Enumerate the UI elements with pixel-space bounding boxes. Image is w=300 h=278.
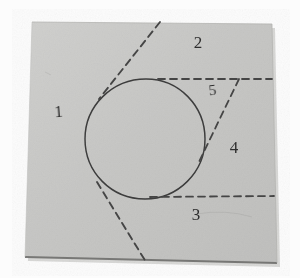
region-label-1: 1: [54, 102, 64, 122]
paper-sheet: [25, 22, 277, 263]
photographed-paper-figure: 12345: [0, 0, 300, 278]
region-label-4: 4: [230, 138, 239, 157]
figure-scene: 12345: [0, 0, 300, 278]
region-label-3: 3: [192, 205, 201, 224]
region-label-2: 2: [194, 33, 203, 52]
